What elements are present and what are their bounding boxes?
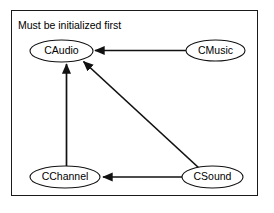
- node-cmusic-label: CMusic: [198, 44, 233, 56]
- node-cchannel-label: CChannel: [42, 170, 89, 182]
- diagram-title: Must be initialized first: [18, 19, 121, 31]
- edge-csound-to-caudio: [84, 62, 200, 169]
- diagram-graphics: Must be initialized first CAudio CMusic …: [0, 0, 274, 213]
- node-csound-label: CSound: [194, 170, 232, 182]
- node-caudio[interactable]: CAudio: [30, 40, 93, 62]
- node-caudio-label: CAudio: [44, 44, 79, 56]
- node-csound[interactable]: CSound: [182, 166, 243, 188]
- diagram-canvas: Must be initialized first CAudio CMusic …: [0, 0, 274, 213]
- node-cchannel[interactable]: CChannel: [30, 166, 100, 188]
- node-cmusic[interactable]: CMusic: [186, 40, 245, 61]
